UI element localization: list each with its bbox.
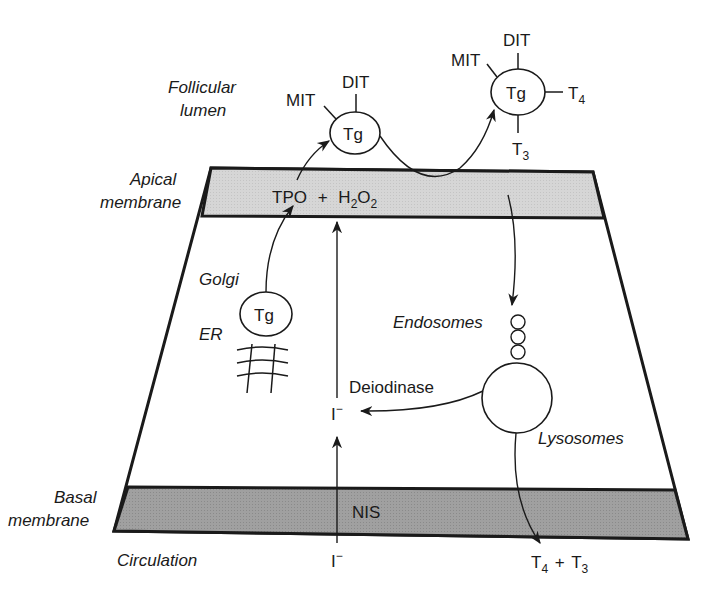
tg-cell-vesicle: Tg bbox=[240, 292, 292, 336]
basal-membrane bbox=[114, 487, 688, 539]
dit-label: DIT bbox=[503, 31, 530, 50]
svg-text:Follicular: Follicular bbox=[168, 78, 237, 97]
svg-text:membrane: membrane bbox=[8, 511, 89, 530]
svg-text:lumen: lumen bbox=[180, 101, 226, 120]
thyroid-diagram: Follicular lumen Apical membrane Basal m… bbox=[0, 0, 715, 591]
cell-body bbox=[114, 168, 688, 539]
svg-text:Basal: Basal bbox=[54, 488, 98, 507]
golgi-label: Golgi bbox=[199, 270, 240, 289]
iodide-circulation-label: I− bbox=[331, 549, 343, 571]
label-follicular-lumen: Follicular lumen bbox=[168, 78, 237, 120]
endosomes-icon bbox=[511, 315, 525, 359]
t3-label: T3 bbox=[512, 140, 529, 163]
label-basal-membrane: Basal membrane bbox=[8, 488, 98, 530]
dit-label: DIT bbox=[342, 73, 369, 92]
svg-text:membrane: membrane bbox=[100, 193, 181, 212]
lysosome-icon bbox=[482, 363, 552, 433]
lysosomes-label: Lysosomes bbox=[538, 429, 624, 448]
apical-membrane bbox=[202, 168, 604, 218]
endosomes-label: Endosomes bbox=[393, 313, 483, 332]
tg-iodinated-molecule: Tg DIT MIT T4 T3 bbox=[451, 31, 585, 163]
er-label: ER bbox=[199, 325, 223, 344]
deiodinase-label: Deiodinase bbox=[349, 378, 434, 397]
hormone-output-label: T4 + T3 bbox=[531, 553, 589, 577]
mit-label: MIT bbox=[451, 51, 480, 70]
svg-text:Tg: Tg bbox=[506, 84, 526, 103]
arrow-tg-to-iodinated-tg bbox=[380, 110, 494, 176]
label-apical-membrane: Apical membrane bbox=[100, 170, 181, 212]
mit-label: MIT bbox=[286, 91, 315, 110]
tg-secreted-molecule: Tg DIT MIT bbox=[286, 73, 380, 154]
svg-text:Apical: Apical bbox=[129, 170, 178, 189]
label-circulation: Circulation bbox=[117, 551, 197, 570]
nis-label: NIS bbox=[352, 503, 380, 522]
t4-label: T4 bbox=[568, 84, 585, 107]
svg-text:Tg: Tg bbox=[254, 306, 274, 325]
svg-text:Tg: Tg bbox=[343, 125, 363, 144]
